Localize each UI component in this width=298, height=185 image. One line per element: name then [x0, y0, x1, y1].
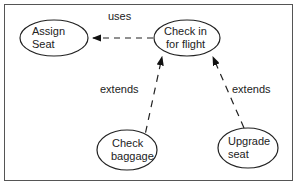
use-case-check-in: Check in for flight — [154, 20, 220, 56]
relation-label-uses: uses — [108, 10, 132, 22]
use-case-upgrade-seat: Upgrade seat — [218, 128, 278, 168]
use-case-check-baggage: Check baggage — [97, 130, 157, 170]
relation-extends-upgrade: extends — [213, 57, 271, 128]
svg-text:Seat: Seat — [32, 38, 55, 50]
svg-text:Upgrade: Upgrade — [228, 135, 270, 147]
svg-text:seat: seat — [228, 148, 249, 160]
relation-label-extends-upgrade: extends — [232, 83, 271, 95]
svg-text:for flight: for flight — [166, 38, 205, 50]
svg-text:Assign: Assign — [32, 25, 65, 37]
use-case-diagram: uses extends extends Assign Seat Check i… — [0, 0, 298, 185]
relation-label-extends-baggage: extends — [100, 83, 139, 95]
svg-text:baggage: baggage — [111, 150, 154, 162]
svg-text:Check: Check — [112, 137, 144, 149]
svg-text:Check in: Check in — [164, 25, 207, 37]
relation-uses: uses — [93, 10, 153, 38]
use-case-assign-seat: Assign Seat — [20, 20, 88, 56]
